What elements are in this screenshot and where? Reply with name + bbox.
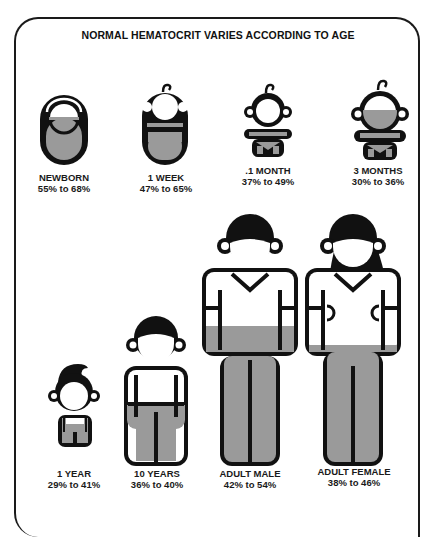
group-range: 30% to 36%: [352, 176, 404, 187]
infant-diaper-icon: [351, 81, 409, 160]
group-name: 10 YEARS: [131, 468, 183, 479]
baby-swaddled-icon: [142, 85, 188, 165]
toddler-overalls-icon: [48, 364, 100, 447]
group-name: .1 MONTH: [242, 165, 294, 176]
adult-male-icon: [202, 214, 298, 466]
group-name: 1 WEEK: [140, 172, 192, 183]
group-range: 37% to 49%: [242, 176, 294, 187]
infant-diaper-icon: [244, 85, 292, 157]
group-range: 47% to 65%: [140, 183, 192, 194]
group-name: ADULT MALE: [219, 468, 280, 479]
group-label-adult-female: ADULT FEMALE 38% to 46%: [317, 466, 390, 488]
group-name: NEWBORN: [38, 172, 90, 183]
group-label-1-week: 1 WEEK 47% to 65%: [140, 172, 192, 194]
group-range: 38% to 46%: [317, 477, 390, 488]
group-label-newborn: NEWBORN 55% to 68%: [38, 172, 90, 194]
group-label-10-years: 10 YEARS 36% to 40%: [131, 468, 183, 490]
group-range: 36% to 40%: [131, 479, 183, 490]
newborn-swaddled-icon: [40, 95, 88, 165]
group-name: 3 MONTHS: [352, 165, 404, 176]
group-label-1-month: .1 MONTH 37% to 49%: [242, 165, 294, 187]
group-range: 42% to 54%: [219, 479, 280, 490]
group-range: 29% to 41%: [48, 479, 100, 490]
group-label-adult-male: ADULT MALE 42% to 54%: [219, 468, 280, 490]
group-label-3-months: 3 MONTHS 30% to 36%: [352, 165, 404, 187]
group-label-1-year: 1 YEAR 29% to 41%: [48, 468, 100, 490]
group-name: ADULT FEMALE: [317, 466, 390, 477]
adult-female-icon: [305, 214, 401, 466]
child-icon: [124, 316, 188, 466]
group-name: 1 YEAR: [48, 468, 100, 479]
group-range: 55% to 68%: [38, 183, 90, 194]
